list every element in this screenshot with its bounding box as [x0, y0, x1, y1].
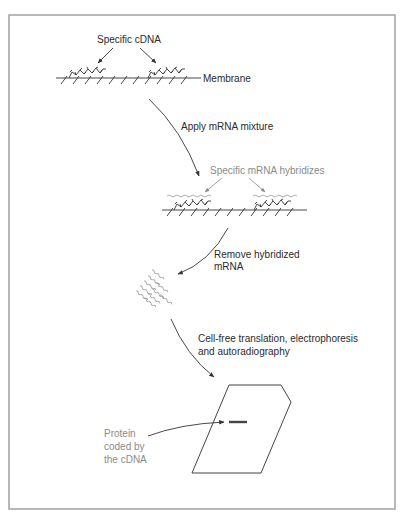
specific-cdna-label: Specific cDNA	[97, 34, 161, 45]
cdna-arrow-right	[140, 48, 156, 63]
membrane-label: Membrane	[203, 73, 251, 84]
remove-label-line2: mRNA	[214, 261, 244, 272]
hybridized-mrna-waves	[167, 195, 297, 197]
autoradiograph-gel	[192, 385, 291, 473]
translation-label-line2: and autoradiography	[198, 346, 290, 357]
translation-label-line1: Cell-free translation, electrophoresis	[198, 333, 358, 344]
membrane-2	[162, 199, 307, 216]
hybrid-selection-diagram: Specific cDNA Membrane Apply mRNA mixtur…	[0, 0, 410, 518]
protein-label-line2: coded by	[104, 441, 145, 452]
membrane-1	[56, 67, 201, 84]
hybridize-arrow-right	[249, 178, 265, 192]
apply-mrna-arrow	[149, 99, 199, 176]
hybridize-arrow-left	[205, 178, 222, 192]
figure-frame	[9, 15, 395, 509]
apply-mrna-label: Apply mRNA mixture	[181, 121, 274, 132]
specific-mrna-hybridizes-label: Specific mRNA hybridizes	[210, 165, 324, 176]
protein-label-line3: the cDNA	[104, 454, 147, 465]
cdna-arrow-left	[98, 48, 113, 63]
eluted-mrna-squiggles	[135, 269, 172, 308]
remove-label-line1: Remove hybridized	[214, 249, 300, 260]
protein-label-line1: Protein	[104, 428, 136, 439]
